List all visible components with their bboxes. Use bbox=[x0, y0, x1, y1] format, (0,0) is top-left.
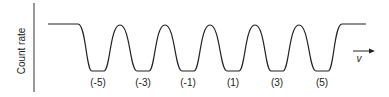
x-axis-label: v bbox=[357, 53, 363, 64]
dip-label: (3) bbox=[271, 77, 283, 88]
y-axis-label: Count rate bbox=[16, 27, 27, 74]
spectrum-curve bbox=[48, 24, 366, 71]
spectrum-diagram: Count rate (-5) (-3) (-1) (1) (3) (5) v bbox=[0, 0, 389, 97]
dip-label: (5) bbox=[316, 77, 328, 88]
dip-label: (-3) bbox=[135, 77, 151, 88]
dip-label: (-1) bbox=[180, 77, 196, 88]
dip-label: (1) bbox=[227, 77, 239, 88]
dip-label: (-5) bbox=[90, 77, 106, 88]
arrow-head-icon bbox=[369, 49, 375, 54]
